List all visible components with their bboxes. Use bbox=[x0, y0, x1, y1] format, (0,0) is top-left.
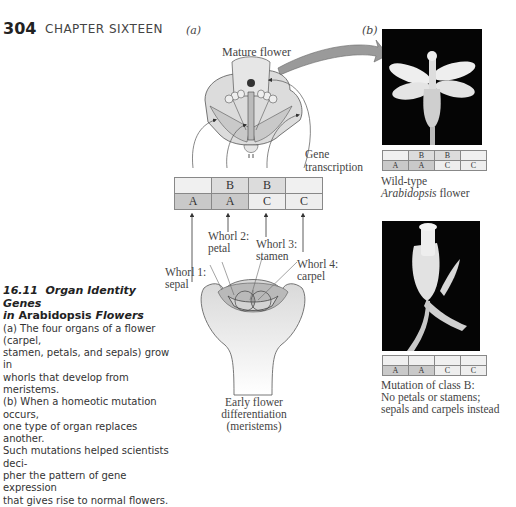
caption-line: whorls that develop from meristems. bbox=[3, 372, 178, 397]
whorl-3-label: Whorl 3: stamen bbox=[256, 238, 297, 262]
abc-cell: B bbox=[249, 178, 286, 194]
abc-cell: A bbox=[212, 194, 249, 210]
abc-cell bbox=[461, 356, 487, 366]
meristem-drawing bbox=[201, 280, 305, 396]
abc-cell: B bbox=[409, 151, 435, 161]
abc-cell: C bbox=[249, 194, 286, 210]
mutant-caption: Mutation of class B: No petals or stamen… bbox=[381, 379, 499, 415]
caption-line: pher the pattern of gene expression bbox=[3, 470, 178, 495]
whorl-4-label: Whorl 4: carpel bbox=[297, 258, 338, 282]
abc-cell: A bbox=[383, 161, 409, 171]
abc-cell: C bbox=[461, 161, 487, 171]
gene-transcription-label-1: Gene bbox=[305, 148, 329, 160]
abc-cell bbox=[409, 356, 435, 366]
figure-caption: 16.11 Organ Identity Genes in Arabidopsi… bbox=[3, 285, 178, 507]
abc-cell: C bbox=[435, 161, 461, 171]
whorl-2-label: Whorl 2: petal bbox=[208, 230, 249, 254]
abc-cell: B bbox=[212, 178, 249, 194]
abc-cell: C bbox=[435, 366, 461, 376]
wildtype-abc-table: B B A A C C bbox=[382, 150, 487, 171]
abc-cell: A bbox=[175, 194, 212, 210]
abc-cell bbox=[286, 178, 323, 194]
mature-flower-label: Mature flower bbox=[222, 46, 291, 58]
wildtype-caption: Wild-type Arabidopsis flower bbox=[381, 175, 469, 199]
caption-title: 16.11 Organ Identity Genes in Arabidopsi… bbox=[3, 285, 178, 323]
abc-cell bbox=[383, 356, 409, 366]
abc-cell bbox=[461, 151, 487, 161]
abc-cell: A bbox=[409, 161, 435, 171]
caption-line: Such mutations helped scientists deci- bbox=[3, 445, 178, 470]
abc-cell bbox=[175, 178, 212, 194]
abc-cell: A bbox=[409, 366, 435, 376]
gray-arrow-icon bbox=[278, 40, 388, 75]
caption-line: one type of organ replaces another. bbox=[3, 421, 178, 446]
wildtype-flower-photo bbox=[382, 29, 482, 145]
caption-line: (b) When a homeotic mutation occurs, bbox=[3, 396, 178, 421]
abc-cell bbox=[435, 356, 461, 366]
caption-line: stamen, petals, and sepals) grow in bbox=[3, 347, 178, 372]
mutant-abc-table: A A C C bbox=[382, 355, 487, 376]
abc-cell: A bbox=[383, 366, 409, 376]
abc-gene-table: B B A A C C bbox=[174, 177, 323, 210]
caption-line: that gives rise to normal flowers. bbox=[3, 495, 178, 507]
early-flower-label: Early flower differentiation (meristems) bbox=[212, 396, 296, 432]
abc-cell: B bbox=[435, 151, 461, 161]
gene-transcription-label-2: transcription bbox=[305, 161, 363, 173]
abc-cell: C bbox=[286, 194, 323, 210]
abc-cell bbox=[383, 151, 409, 161]
caption-line: (a) The four organs of a flower (carpel, bbox=[3, 323, 178, 348]
abc-cell: C bbox=[461, 366, 487, 376]
mutant-flower-photo bbox=[382, 221, 480, 351]
